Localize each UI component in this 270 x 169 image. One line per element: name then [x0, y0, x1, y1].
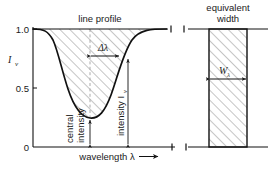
intensity-label: intensity I: [115, 96, 126, 136]
figure-canvas: 1.0 0.5 0 I ν line profile Δλ intensity …: [0, 0, 270, 169]
equivalent-width-caption-line1: equivalent: [206, 2, 250, 13]
equivalent-width-caption-line2: width: [216, 13, 239, 24]
central-intensity-label-line1: central: [64, 114, 75, 143]
line-profile-caption: line profile: [78, 13, 121, 24]
y-tick-label-05: 0.5: [16, 83, 29, 94]
y-tick-label-0: 0: [24, 142, 29, 153]
delta-lambda-label: Δλ: [97, 42, 109, 53]
central-intensity-label-line2: intensity: [75, 108, 86, 143]
x-axis-title: wavelength λ: [78, 151, 135, 162]
equivalent-width-rectangle: [209, 29, 247, 147]
equivalent-width-subscript: λ: [226, 71, 230, 79]
equivalent-width-figure: 1.0 0.5 0 I ν line profile Δλ intensity …: [0, 0, 270, 169]
y-tick-label-1: 1.0: [16, 24, 29, 35]
y-axis-title-symbol: I: [7, 54, 12, 65]
